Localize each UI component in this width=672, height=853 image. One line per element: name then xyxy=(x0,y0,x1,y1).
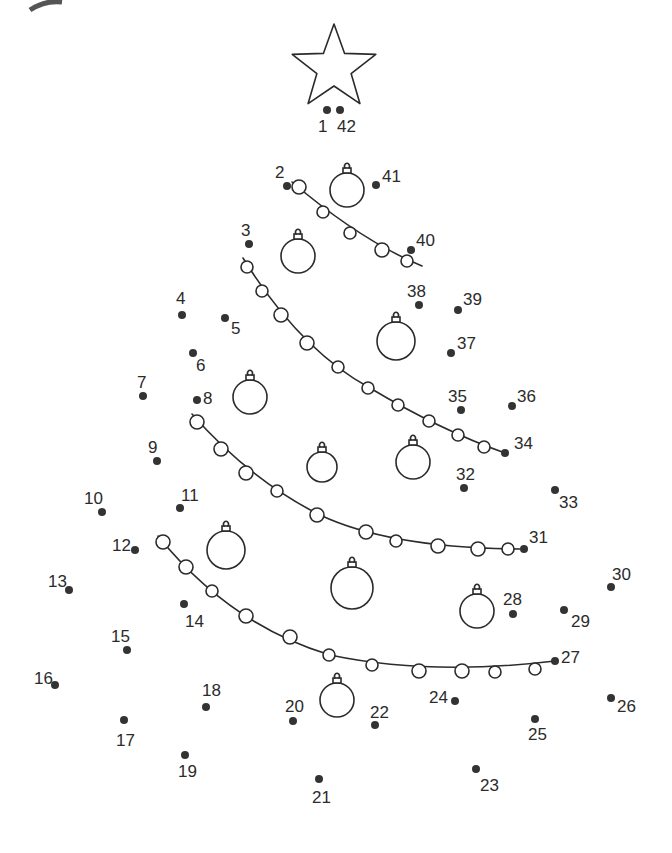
dot-18[interactable]: 18 xyxy=(202,681,221,711)
dot-34[interactable]: 34 xyxy=(501,434,533,457)
dot-point[interactable] xyxy=(323,106,331,114)
dot-22[interactable]: 22 xyxy=(370,703,389,729)
dot-point[interactable] xyxy=(501,449,509,457)
dot-point[interactable] xyxy=(181,751,189,759)
dot-8[interactable]: 8 xyxy=(193,389,212,408)
dot-point[interactable] xyxy=(245,240,253,248)
dot-15[interactable]: 15 xyxy=(111,627,131,654)
dot-point[interactable] xyxy=(202,703,210,711)
dot-point[interactable] xyxy=(472,765,480,773)
dot-point[interactable] xyxy=(460,484,468,492)
dot-point[interactable] xyxy=(607,694,615,702)
dot-point[interactable] xyxy=(283,182,291,190)
dot-27[interactable]: 27 xyxy=(551,648,580,667)
dot-20[interactable]: 20 xyxy=(285,697,304,725)
dot-label: 3 xyxy=(241,221,250,240)
dot-29[interactable]: 29 xyxy=(560,606,590,631)
dot-point[interactable] xyxy=(447,349,455,357)
dot-24[interactable]: 24 xyxy=(429,688,459,707)
bead-icon xyxy=(431,539,445,553)
dot-point[interactable] xyxy=(120,716,128,724)
dot-point[interactable] xyxy=(520,545,528,553)
dot-label: 40 xyxy=(416,231,435,250)
ornament-icon xyxy=(396,435,430,479)
dot-point[interactable] xyxy=(289,717,297,725)
dot-10[interactable]: 10 xyxy=(84,489,106,516)
dot-point[interactable] xyxy=(457,406,465,414)
dot-4[interactable]: 4 xyxy=(176,289,186,319)
dot-16[interactable]: 16 xyxy=(34,669,59,689)
dot-35[interactable]: 35 xyxy=(448,387,467,414)
dot-label: 5 xyxy=(231,319,240,338)
dot-12[interactable]: 12 xyxy=(112,536,139,555)
dot-23[interactable]: 23 xyxy=(472,765,499,795)
dot-39[interactable]: 39 xyxy=(454,290,482,314)
dot-point[interactable] xyxy=(153,457,161,465)
dot-38[interactable]: 38 xyxy=(407,282,426,309)
dot-point[interactable] xyxy=(371,721,379,729)
dot-point[interactable] xyxy=(315,775,323,783)
dot-point[interactable] xyxy=(551,657,559,665)
dot-point[interactable] xyxy=(139,392,147,400)
dot-11[interactable]: 11 xyxy=(176,486,199,512)
dot-14[interactable]: 14 xyxy=(180,600,204,631)
dot-point[interactable] xyxy=(509,610,517,618)
dot-point[interactable] xyxy=(98,508,106,516)
dot-7[interactable]: 7 xyxy=(137,373,147,400)
dot-25[interactable]: 25 xyxy=(528,715,547,744)
dot-19[interactable]: 19 xyxy=(178,751,197,781)
dot-point[interactable] xyxy=(193,396,201,404)
dot-point[interactable] xyxy=(531,715,539,723)
dot-point[interactable] xyxy=(407,246,415,254)
dot-point[interactable] xyxy=(454,306,462,314)
dot-26[interactable]: 26 xyxy=(607,694,636,716)
dot-point[interactable] xyxy=(560,606,568,614)
dot-13[interactable]: 13 xyxy=(48,572,73,594)
dot-point[interactable] xyxy=(336,106,344,114)
bead-icon xyxy=(239,609,253,623)
dot-point[interactable] xyxy=(508,402,516,410)
dot-point[interactable] xyxy=(551,486,559,494)
dot-point[interactable] xyxy=(221,314,229,322)
dot-label: 9 xyxy=(148,438,157,457)
dot-40[interactable]: 40 xyxy=(407,231,435,254)
dot-point[interactable] xyxy=(451,697,459,705)
dot-21[interactable]: 21 xyxy=(312,775,331,807)
dot-37[interactable]: 37 xyxy=(447,334,476,357)
dot-33[interactable]: 33 xyxy=(551,486,578,512)
dot-label: 30 xyxy=(612,565,631,584)
dot-point[interactable] xyxy=(176,504,184,512)
dot-label: 26 xyxy=(617,697,636,716)
dot-point[interactable] xyxy=(178,311,186,319)
dot-label: 23 xyxy=(480,776,499,795)
dot-point[interactable] xyxy=(180,600,188,608)
dot-6[interactable]: 6 xyxy=(189,349,205,375)
ornament-icon xyxy=(330,163,364,207)
dot-9[interactable]: 9 xyxy=(148,438,161,465)
dot-label: 16 xyxy=(34,669,53,688)
dot-point[interactable] xyxy=(372,181,380,189)
dot-1[interactable]: 1 xyxy=(318,106,331,136)
dot-36[interactable]: 36 xyxy=(508,387,536,410)
ornament-icon xyxy=(320,673,354,717)
bead-icon xyxy=(359,525,373,539)
dot-point[interactable] xyxy=(123,646,131,654)
dot-41[interactable]: 41 xyxy=(372,167,401,189)
bead-icon xyxy=(241,261,253,273)
dot-2[interactable]: 2 xyxy=(275,163,291,190)
dot-5[interactable]: 5 xyxy=(221,314,240,338)
dot-point[interactable] xyxy=(131,546,139,554)
dot-point[interactable] xyxy=(415,301,423,309)
dot-28[interactable]: 28 xyxy=(503,590,522,618)
dot-31[interactable]: 31 xyxy=(520,528,548,553)
dot-label: 10 xyxy=(84,489,103,508)
dot-17[interactable]: 17 xyxy=(116,716,135,750)
dot-42[interactable]: 42 xyxy=(336,106,356,136)
bead-icon xyxy=(529,663,541,675)
dot-32[interactable]: 32 xyxy=(456,465,475,492)
dot-3[interactable]: 3 xyxy=(241,221,253,248)
dot-point[interactable] xyxy=(607,583,615,591)
garland-3 xyxy=(190,414,520,556)
dot-30[interactable]: 30 xyxy=(607,565,631,591)
dot-label: 25 xyxy=(528,725,547,744)
